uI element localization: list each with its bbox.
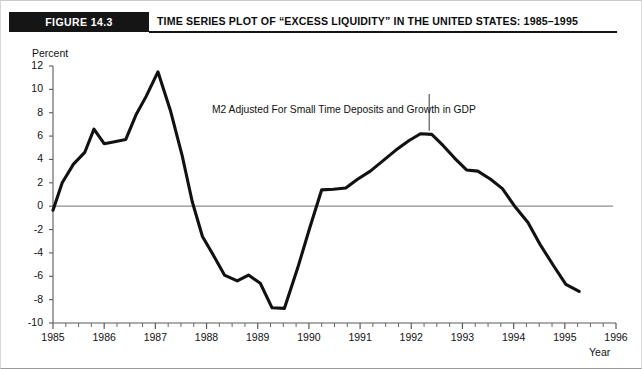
- y-axis-tick-label: -8: [17, 293, 43, 305]
- x-axis-tick-label: 1989: [235, 331, 281, 343]
- y-axis-tick-label: 2: [17, 176, 43, 188]
- x-axis-tick-label: 1986: [81, 331, 127, 343]
- y-axis-ticks: [49, 66, 53, 323]
- y-axis-tick-label: 10: [17, 82, 43, 94]
- figure-container: FIGURE 14.3 TIME SERIES PLOT OF “EXCESS …: [0, 0, 642, 369]
- y-axis-tick-label: 4: [17, 152, 43, 164]
- y-axis-tick-label: 0: [17, 199, 43, 211]
- x-axis-tick-label: 1994: [491, 331, 537, 343]
- y-axis-tick-label: -2: [17, 223, 43, 235]
- y-axis-tick-label: 6: [17, 129, 43, 141]
- y-axis-title: Percent: [32, 47, 68, 59]
- x-axis-title: Year: [589, 346, 610, 358]
- x-axis-tick-label: 1993: [439, 331, 485, 343]
- x-axis-tick-label: 1996: [593, 331, 639, 343]
- x-axis-tick-label: 1992: [388, 331, 434, 343]
- series-annotation-label: M2 Adjusted For Small Time Deposits and …: [212, 104, 476, 115]
- x-axis-tick-label: 1991: [337, 331, 383, 343]
- y-axis-tick-label: -4: [17, 246, 43, 258]
- y-axis-tick-label: -6: [17, 269, 43, 281]
- x-axis-tick-label: 1995: [542, 331, 588, 343]
- x-axis-tick-label: 1985: [30, 331, 76, 343]
- x-axis-tick-label: 1988: [184, 331, 230, 343]
- x-axis-tick-label: 1987: [132, 331, 178, 343]
- chart-canvas: [1, 1, 642, 369]
- x-axis-minor-ticks: [66, 323, 603, 327]
- x-axis-tick-label: 1990: [286, 331, 332, 343]
- y-axis-tick-label: 12: [17, 59, 43, 71]
- chart-plot-area: Percent Year -10-8-6-4-2024681012 198519…: [1, 1, 642, 369]
- y-axis-tick-label: 8: [17, 106, 43, 118]
- y-axis-tick-label: -10: [17, 316, 43, 328]
